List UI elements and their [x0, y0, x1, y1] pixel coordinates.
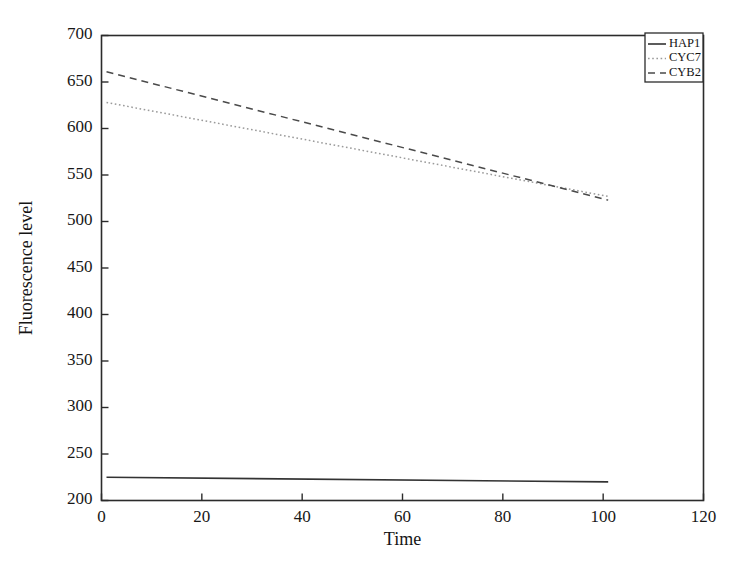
x-axis-tick-label: 0	[97, 507, 106, 526]
y-axis-title: Fluorescence level	[16, 201, 36, 335]
y-axis-tick-label: 350	[67, 350, 93, 369]
y-axis-tick-label: 450	[67, 257, 93, 276]
series-line-hap1	[107, 477, 609, 482]
legend-label-cyc7: CYC7	[669, 50, 701, 64]
x-axis-tick-label: 120	[691, 507, 717, 526]
x-axis-title: Time	[384, 529, 421, 549]
legend-label-cyb2: CYB2	[669, 65, 701, 79]
series-line-cyc7	[107, 102, 609, 196]
y-axis-tick-label: 500	[67, 210, 93, 229]
y-axis-tick-label: 200	[67, 489, 93, 508]
plot-frame	[102, 36, 704, 501]
legend: HAP1CYC7CYB2	[645, 33, 703, 82]
legend-label-hap1: HAP1	[669, 36, 700, 50]
figure-container: 2002503003504004505005506006507000204060…	[0, 0, 731, 577]
x-axis-tick-label: 60	[394, 507, 411, 526]
x-axis-tick-label: 80	[494, 507, 511, 526]
x-axis-tick-label: 100	[590, 507, 616, 526]
series-line-cyb2	[107, 72, 609, 200]
y-axis-tick-label: 700	[67, 24, 93, 43]
x-axis-tick-label: 40	[294, 507, 311, 526]
y-axis-tick-label: 300	[67, 396, 93, 415]
y-axis-tick-label: 650	[67, 71, 93, 90]
y-axis-tick-label: 400	[67, 303, 93, 322]
x-axis-tick-label: 20	[193, 507, 210, 526]
y-axis-tick-label: 550	[67, 164, 93, 183]
y-axis-tick-label: 600	[67, 117, 93, 136]
y-axis-tick-label: 250	[67, 443, 93, 462]
line-chart: 2002503003504004505005506006507000204060…	[0, 0, 731, 577]
